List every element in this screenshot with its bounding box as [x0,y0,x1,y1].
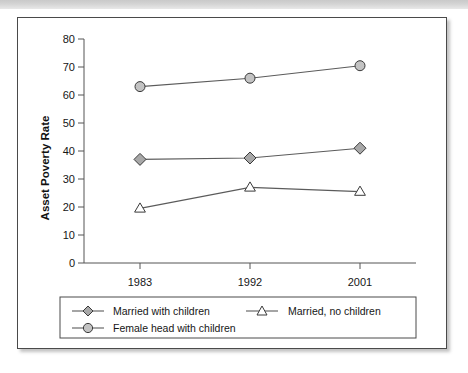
data-point-married-with-children-1992 [244,152,256,164]
data-point-married-no-children-2001 [355,186,366,195]
legend-label-married-with-children: Married with children [113,305,210,317]
legend-label-female-head-with-children: Female head with children [113,322,236,334]
y-tick-label-0: 0 [69,257,75,269]
data-point-married-no-children-1992 [245,182,256,191]
x-tick-label-1983: 1983 [128,276,152,288]
y-tick-label-30: 30 [63,173,75,185]
legend-marker-diamond-icon [83,306,93,316]
y-tick-label-80: 80 [63,33,75,45]
page-top-band [0,0,468,9]
chart-figure-frame: Asset Poverty Rate 80 70 60 50 40 30 20 … [17,17,447,349]
asset-poverty-rate-line-chart: Asset Poverty Rate 80 70 60 50 40 30 20 … [18,18,448,350]
y-axis-title: Asset Poverty Rate [39,116,51,221]
data-point-married-with-children-2001 [354,142,366,154]
y-tick-label-40: 40 [63,145,75,157]
y-tick-label-50: 50 [63,117,75,129]
data-point-female-head-1983 [135,82,145,92]
data-point-female-head-1992 [245,73,255,83]
legend-marker-circle-icon [83,323,92,332]
y-tick-label-60: 60 [63,89,75,101]
data-point-married-with-children-1983 [134,153,146,165]
y-tick-label-70: 70 [63,61,75,73]
x-tick-label-2001: 2001 [348,276,372,288]
legend-entry-married-with-children[interactable]: Married with children [72,305,210,317]
legend-label-married-no-children: Married, no children [288,305,381,317]
y-tick-label-20: 20 [63,201,75,213]
y-tick-label-10: 10 [63,229,75,241]
legend-entry-female-head-with-children[interactable]: Female head with children [72,322,236,334]
x-tick-label-1992: 1992 [238,276,262,288]
data-point-female-head-2001 [355,61,365,71]
chart-plot-area: Asset Poverty Rate 80 70 60 50 40 30 20 … [18,18,448,350]
legend-entry-married-no-children[interactable]: Married, no children [246,305,381,317]
